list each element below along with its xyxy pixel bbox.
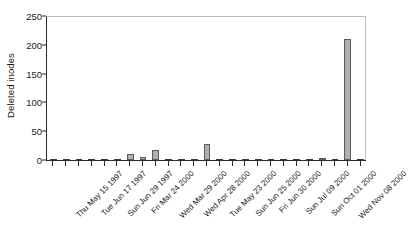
x-tick-mark bbox=[206, 161, 207, 166]
x-tick-mark bbox=[168, 161, 169, 166]
y-tick-label: 200 bbox=[26, 39, 42, 50]
x-tick-label-text: Tue Jun 17 1997 bbox=[100, 169, 149, 218]
x-tick-label: Tue Jun 17 1997 bbox=[100, 169, 149, 218]
y-tick-label: 150 bbox=[26, 68, 42, 79]
y-tick-label: 100 bbox=[26, 97, 42, 108]
x-tick-mark bbox=[52, 161, 53, 166]
x-tick-mark bbox=[244, 161, 245, 166]
x-tick-mark bbox=[270, 161, 271, 166]
bar bbox=[152, 150, 159, 160]
x-tick-mark bbox=[193, 161, 194, 166]
x-tick-mark bbox=[180, 161, 181, 166]
x-tick-mark bbox=[65, 161, 66, 166]
x-tick-mark bbox=[347, 161, 348, 166]
x-tick-mark bbox=[155, 161, 156, 166]
x-tick-mark bbox=[116, 161, 117, 166]
bar bbox=[204, 144, 211, 160]
bar bbox=[344, 39, 351, 160]
y-axis-title-text: Deleted inodes bbox=[5, 53, 16, 118]
x-tick-mark bbox=[219, 161, 220, 166]
x-tick-mark bbox=[257, 161, 258, 166]
x-tick-mark bbox=[308, 161, 309, 166]
plot-area bbox=[46, 16, 366, 160]
x-tick-mark bbox=[232, 161, 233, 166]
y-tick-label: 50 bbox=[31, 126, 42, 137]
x-tick-mark bbox=[321, 161, 322, 166]
x-tick-mark bbox=[296, 161, 297, 166]
x-tick-mark bbox=[104, 161, 105, 166]
x-tick-mark bbox=[91, 161, 92, 166]
x-axis-tick-labels: Thu May 15 1997Tue Jun 17 1997Sun Jun 29… bbox=[0, 167, 376, 239]
bars-container bbox=[47, 17, 365, 160]
x-tick-mark bbox=[129, 161, 130, 166]
y-tick-label: 250 bbox=[26, 11, 42, 22]
x-tick-mark bbox=[334, 161, 335, 166]
x-tick-mark bbox=[360, 161, 361, 166]
y-axis-title: Deleted inodes bbox=[0, 0, 20, 170]
x-tick-mark bbox=[78, 161, 79, 166]
x-tick-mark bbox=[283, 161, 284, 166]
x-tick-mark bbox=[142, 161, 143, 166]
y-axis-tick-labels: 050100150200250 bbox=[18, 10, 46, 165]
